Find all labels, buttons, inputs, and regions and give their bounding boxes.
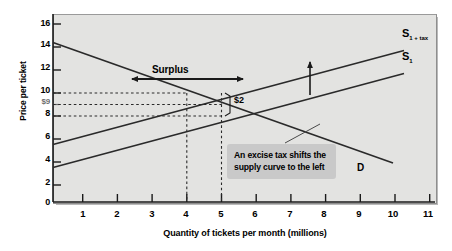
supply-original-label-sub: 1 [409,58,412,64]
demand-label: D [357,162,364,173]
excise-tax-callout-box: An excise tax shifts the supply curve to… [227,144,336,179]
dashed-guides [53,93,222,202]
supply-original-label: S1 [402,50,413,64]
demand-curve [53,43,393,164]
supply-with-tax-label: S1 + tax [402,27,428,41]
tax-wedge-label: $2 [234,95,244,105]
supply-with-tax-label-sub: 1 + tax [409,35,428,41]
supply-curve-with-tax [53,51,404,145]
supply-demand-figure: 16 14 12 10 $9 8 6 4 2 0 1 2 3 4 5 6 7 8… [0,0,452,251]
surplus-annotation-label: Surplus [152,64,189,75]
x-tick-marks [83,194,430,202]
plot-svg [0,0,452,251]
